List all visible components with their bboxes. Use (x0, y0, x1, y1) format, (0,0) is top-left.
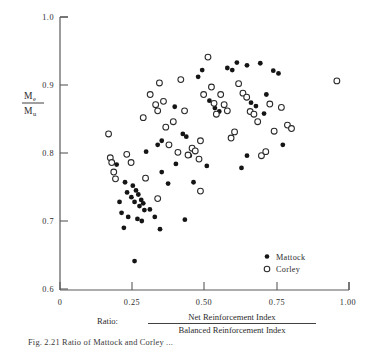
data-point-mattock (276, 71, 281, 76)
data-point-mattock (182, 217, 187, 222)
data-point-corley (201, 92, 207, 98)
data-point-corley (205, 54, 211, 60)
data-point-mattock (239, 166, 244, 171)
data-point-mattock (139, 219, 144, 224)
data-point-corley (163, 124, 169, 130)
data-point-mattock (130, 183, 135, 188)
x-axis-ticks (60, 282, 349, 290)
data-point-mattock (135, 217, 140, 222)
data-point-corley (224, 108, 230, 114)
data-point-mattock (264, 92, 269, 97)
data-point-corley (153, 102, 159, 108)
data-point-mattock (159, 138, 164, 143)
data-point-corley (255, 119, 261, 125)
y-tick-labels: 1.0 0.9 0.8 0.7 0.6 (42, 13, 54, 294)
data-point-mattock (123, 180, 128, 185)
legend-marker-corley (264, 266, 270, 272)
data-points-layer (106, 54, 340, 263)
figure-caption: Fig. 2.21 Ratio of Mattock and Corley ..… (28, 338, 173, 347)
y-axis-denominator: Mu (24, 106, 37, 117)
data-point-mattock (245, 63, 250, 68)
data-point-mattock (155, 142, 160, 147)
data-point-corley (263, 149, 269, 155)
data-point-mattock (204, 164, 209, 169)
data-point-corley (147, 92, 153, 98)
data-point-corley (175, 149, 181, 155)
data-point-corley (124, 151, 130, 157)
data-point-mattock (144, 149, 149, 154)
data-point-mattock (196, 74, 201, 79)
data-point-mattock (117, 200, 122, 205)
data-point-mattock (173, 161, 178, 166)
data-point-mattock (134, 188, 139, 193)
data-point-corley (278, 105, 284, 111)
y-tick-label: 0.8 (42, 149, 54, 158)
data-point-mattock (254, 104, 259, 109)
data-point-mattock (262, 111, 267, 116)
data-point-mattock (136, 192, 141, 197)
data-point-corley (198, 138, 204, 144)
data-point-mattock (184, 134, 189, 139)
data-point-mattock (126, 215, 131, 220)
data-point-corley (218, 92, 224, 98)
data-point-mattock (245, 153, 250, 158)
data-point-corley (128, 160, 134, 166)
data-point-corley (232, 129, 238, 135)
data-point-mattock (258, 61, 263, 66)
data-point-mattock (191, 180, 196, 185)
data-point-corley (113, 176, 119, 182)
data-point-corley (251, 111, 257, 117)
data-point-corley (228, 135, 234, 141)
plot-svg: 1.0 0.9 0.8 0.7 0.6 0 0.25 0.50 0.75 1.0… (0, 0, 365, 347)
data-point-mattock (280, 142, 285, 147)
x-tick-label: 1.00 (340, 298, 356, 307)
data-point-mattock (119, 210, 124, 215)
data-point-corley (267, 101, 273, 107)
data-point-corley (178, 77, 184, 83)
data-point-corley (161, 98, 167, 104)
data-point-mattock (142, 208, 147, 213)
data-point-mattock (125, 190, 130, 195)
data-point-mattock (249, 100, 254, 105)
data-point-corley (106, 131, 112, 137)
data-point-mattock (152, 215, 157, 220)
legend-marker-mattock (265, 254, 270, 259)
data-point-mattock (159, 170, 164, 175)
data-point-corley (155, 196, 161, 202)
data-point-corley (109, 160, 115, 166)
data-point-mattock (129, 195, 134, 200)
y-tick-label: 1.0 (42, 13, 54, 22)
axis-lines (60, 17, 349, 290)
data-point-corley (155, 108, 161, 114)
data-point-mattock (158, 227, 163, 232)
y-tick-label: 0.6 (42, 285, 54, 294)
data-point-mattock (132, 200, 137, 205)
data-point-mattock (271, 68, 276, 73)
x-axis-title: Ratio: Net Reinforcement Index Balanced … (97, 312, 316, 335)
legend-label-mattock: Mattock (276, 253, 306, 262)
data-point-corley (209, 84, 215, 90)
data-point-corley (166, 142, 172, 148)
x-tick-label: 0.25 (124, 298, 140, 307)
data-point-corley (143, 175, 149, 181)
y-axis-ticks (60, 17, 68, 289)
data-point-corley (289, 126, 295, 132)
y-tick-label: 0.9 (42, 81, 54, 90)
x-tick-label: 0.75 (269, 298, 285, 307)
x-tick-label: 0 (58, 298, 63, 307)
data-point-corley (271, 128, 277, 134)
scatter-plot-figure: 1.0 0.9 0.8 0.7 0.6 0 0.25 0.50 0.75 1.0… (0, 0, 365, 347)
x-tick-label: 0.50 (196, 298, 212, 307)
data-point-mattock (234, 60, 239, 65)
data-point-corley (157, 80, 163, 86)
legend-label-corley: Corley (276, 265, 301, 274)
x-axis-title-numerator: Net Reinforcement Index (188, 312, 276, 322)
data-point-corley (192, 148, 198, 154)
data-point-mattock (147, 207, 152, 212)
data-point-corley (111, 169, 117, 175)
data-point-corley (185, 152, 191, 158)
y-axis-title: Me Mu (22, 91, 44, 117)
data-point-mattock (225, 66, 230, 71)
x-tick-labels: 0 0.25 0.50 0.75 1.00 (58, 298, 356, 307)
data-point-mattock (230, 68, 235, 73)
